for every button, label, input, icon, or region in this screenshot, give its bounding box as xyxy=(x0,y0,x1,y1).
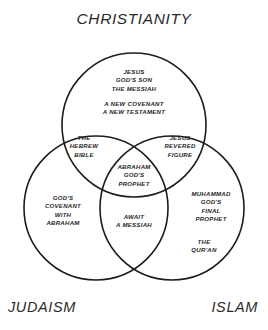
region-all-three: ABRAHAM GOD'S PROPHET xyxy=(106,163,162,188)
region-christianity-only-secondary: A NEW COVENANT A NEW TESTAMENT xyxy=(89,100,179,117)
set-label-christianity: CHRISTIANITY xyxy=(0,10,268,28)
venn-diagram: CHRISTIANITY JUDAISM ISLAM JESUS GOD'S S… xyxy=(0,0,268,330)
set-label-islam: ISLAM xyxy=(211,299,258,315)
region-christianity-islam: JESUS REVERED FIGURE xyxy=(152,134,208,159)
region-islam-only-secondary: THE QUR'AN xyxy=(178,238,230,255)
region-judaism-islam: AWAIT A MESSIAH xyxy=(104,213,164,230)
region-christianity-only-primary: JESUS GOD'S SON THE MESSIAH xyxy=(94,68,174,93)
region-christianity-judaism: THE HEBREW BIBLE xyxy=(57,134,111,159)
set-label-judaism: JUDAISM xyxy=(8,299,76,315)
region-judaism-only: GOD'S COVENANT WITH ABRAHAM xyxy=(32,194,94,228)
region-islam-only-primary: MUHAMMAD GOD'S FINAL PROPHET xyxy=(178,190,244,224)
